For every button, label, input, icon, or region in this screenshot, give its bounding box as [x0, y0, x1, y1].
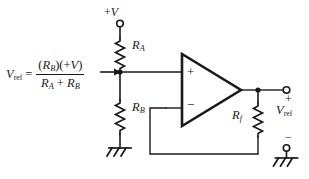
resistor-rf-label: Rf — [232, 109, 242, 124]
resistor-rb-label: RB — [132, 101, 145, 116]
opamp-inverting-input-label: − — [187, 98, 194, 111]
vref-formula: Vref = (RB)(+V) RA + RB — [6, 58, 84, 92]
formula-equals: = — [25, 67, 32, 82]
output-vref-label: Vref — [276, 104, 292, 118]
formula-lhs: Vref — [6, 67, 22, 82]
supply-label: +V — [104, 6, 118, 18]
formula-denominator: RA + RB — [39, 75, 82, 91]
resistor-ra-zigzag — [116, 38, 125, 72]
ground-right-terminal-circle — [283, 145, 289, 151]
resistor-ra-label: RA — [132, 39, 145, 54]
formula-fraction: (RB)(+V) RA + RB — [36, 58, 84, 92]
supply-terminal-circle — [117, 20, 124, 27]
opamp-noninverting-input-label: + — [187, 65, 194, 78]
resistor-rf-zigzag — [254, 103, 263, 137]
formula-lhs-subscript: ref — [14, 73, 23, 82]
circuit-diagram-figure: Vref = (RB)(+V) RA + RB +V RA RB Rf + − … — [0, 0, 309, 179]
formula-numerator: (RB)(+V) — [36, 58, 84, 74]
resistor-rb-zigzag — [116, 100, 125, 134]
ground-left — [107, 148, 131, 156]
output-polarity-minus-label: − — [285, 131, 292, 143]
ground-right — [274, 158, 298, 166]
